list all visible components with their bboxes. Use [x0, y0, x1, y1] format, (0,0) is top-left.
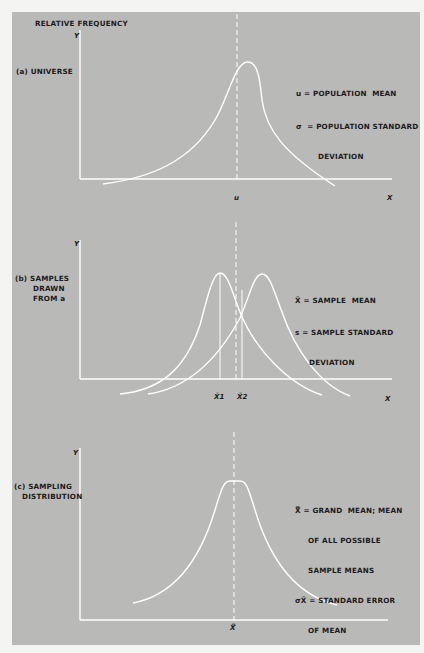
legend-item-population-mean: u = POPULATION MEAN: [296, 89, 418, 99]
panel-b-label-line-2: DRAWN: [33, 284, 65, 294]
panel-b-legend: X̄ = SAMPLE MEAN s = SAMPLE STANDARD DEV…: [295, 276, 393, 378]
panel-b-label-line-3: FROM a: [33, 294, 65, 304]
panel-b-mean-marker-2: X̄2: [237, 392, 248, 402]
panel-b-y-label: Y: [74, 239, 79, 249]
legend-item-grand-mean: X̿ = GRAND MEAN; MEAN: [295, 506, 402, 516]
panel-c-label-line-2: DISTRIBUTION: [22, 492, 82, 502]
panel-a-x-label: X: [387, 193, 393, 203]
panel-b-x-label: X: [385, 394, 391, 404]
panel-c-legend: X̿ = GRAND MEAN; MEAN OF ALL POSSIBLE SA…: [295, 486, 402, 646]
legend-item-standard-error: σX̄ = STANDARD ERROR: [295, 596, 402, 606]
legend-item-sample-mean: X̄ = SAMPLE MEAN: [295, 296, 393, 306]
panel-a-legend: u = POPULATION MEAN σ = POPULATION STAND…: [296, 69, 418, 172]
panel-a-y-label: Y: [74, 31, 79, 41]
panel-c-label-line-1: (c) SAMPLING: [14, 482, 72, 492]
panel-a-mean-marker: u: [234, 193, 239, 203]
panel-c-grand-mean-marker: X̿: [230, 623, 236, 633]
legend-item-population-sd: σ = POPULATION STANDARD: [296, 122, 418, 132]
panel-b-mean-marker-1: X̄1: [214, 392, 225, 402]
y-axis-title: RELATIVE FREQUENCY: [35, 19, 128, 29]
panel-b-label-line-1: (b) SAMPLES: [15, 274, 69, 284]
panel-a-label: (a) UNIVERSE: [16, 67, 73, 77]
panel-c-y-label: Y: [73, 448, 78, 458]
legend-item-sample-sd: s = SAMPLE STANDARD: [295, 328, 393, 338]
